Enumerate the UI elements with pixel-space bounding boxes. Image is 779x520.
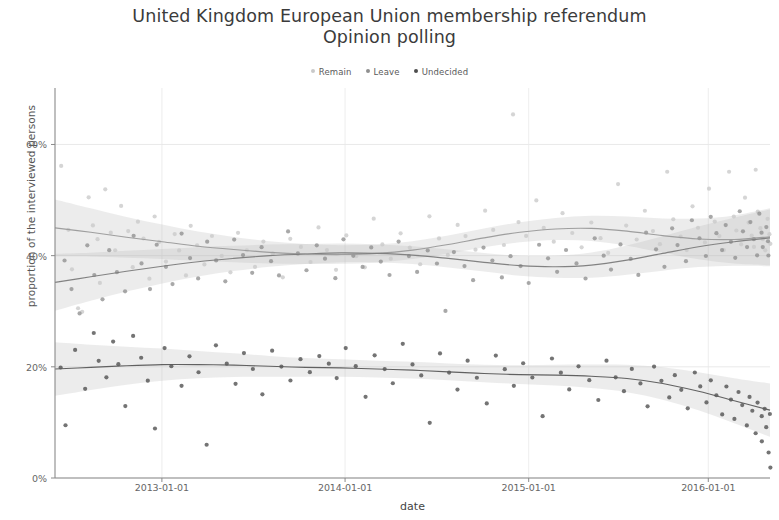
data-point: [298, 357, 302, 361]
data-point: [665, 170, 669, 174]
data-point: [698, 384, 702, 388]
data-point: [443, 309, 447, 313]
data-point: [281, 275, 285, 279]
data-point: [419, 373, 423, 377]
data-point: [630, 367, 634, 371]
data-point: [765, 217, 769, 221]
data-point: [391, 381, 395, 385]
data-point: [189, 224, 193, 228]
data-point: [767, 450, 771, 454]
data-point: [95, 237, 99, 241]
data-point: [667, 395, 671, 399]
data-point: [704, 254, 708, 258]
data-point: [205, 443, 209, 447]
data-point: [662, 265, 666, 269]
data-point: [327, 362, 331, 366]
data-point: [179, 384, 183, 388]
data-point: [658, 242, 662, 246]
data-point: [503, 367, 507, 371]
data-point: [109, 231, 113, 235]
data-point: [696, 226, 700, 230]
data-point: [308, 260, 312, 264]
data-point: [675, 243, 679, 247]
data-point: [475, 376, 479, 380]
data-point: [232, 237, 236, 241]
data-point: [98, 281, 102, 285]
data-point: [502, 243, 506, 247]
data-point: [261, 239, 265, 243]
data-point: [446, 253, 450, 257]
data-point: [369, 245, 373, 249]
data-point: [768, 412, 772, 416]
data-point: [452, 250, 456, 254]
data-point: [387, 273, 391, 277]
data-point: [184, 273, 188, 277]
data-point: [107, 248, 111, 252]
data-point: [555, 270, 559, 274]
data-point: [269, 259, 273, 263]
data-point: [766, 239, 770, 243]
data-point: [546, 256, 550, 260]
data-point: [103, 187, 107, 191]
data-point: [92, 331, 96, 335]
data-point: [344, 346, 348, 350]
data-point: [401, 342, 405, 346]
data-point: [757, 212, 761, 216]
data-point: [703, 240, 707, 244]
data-point: [690, 204, 694, 208]
data-point: [304, 268, 308, 272]
data-point: [745, 423, 749, 427]
data-point: [78, 311, 82, 315]
data-point: [743, 196, 747, 200]
data-point: [162, 346, 166, 350]
data-point: [170, 282, 174, 286]
data-point: [768, 465, 772, 469]
data-point: [437, 236, 441, 240]
data-point: [59, 164, 63, 168]
data-point: [427, 214, 431, 218]
data-point: [408, 245, 412, 249]
data-point: [91, 223, 95, 227]
data-point: [188, 256, 192, 260]
data-point: [241, 253, 245, 257]
data-point: [397, 239, 401, 243]
data-point: [325, 248, 329, 252]
data-point: [490, 258, 494, 262]
data-point: [335, 376, 339, 380]
data-point: [761, 245, 765, 249]
data-point: [146, 379, 150, 383]
data-point: [618, 242, 622, 246]
data-point: [750, 233, 754, 237]
data-point: [713, 219, 717, 223]
data-point: [593, 236, 597, 240]
data-point: [624, 223, 628, 227]
data-point: [447, 370, 451, 374]
data-point: [494, 353, 498, 357]
data-point: [732, 214, 736, 218]
data-point: [435, 261, 439, 265]
data-point: [755, 253, 759, 257]
data-point: [62, 258, 66, 262]
data-point: [236, 231, 240, 235]
data-point: [242, 351, 246, 355]
data-point: [104, 375, 108, 379]
data-point: [113, 248, 117, 252]
data-point: [670, 226, 674, 230]
data-point: [210, 234, 214, 238]
data-point: [754, 168, 758, 172]
data-point: [483, 209, 487, 213]
data-point: [534, 198, 538, 202]
data-point: [684, 259, 688, 263]
data-point: [196, 370, 200, 374]
data-point: [270, 349, 274, 353]
data-point: [609, 268, 613, 272]
data-point: [173, 232, 177, 236]
data-point: [299, 245, 303, 249]
data-point: [636, 273, 640, 277]
data-point: [380, 242, 384, 246]
data-point: [277, 273, 281, 277]
data-point: [707, 187, 711, 191]
data-point: [736, 390, 740, 394]
data-point: [596, 398, 600, 402]
data-point: [652, 364, 656, 368]
